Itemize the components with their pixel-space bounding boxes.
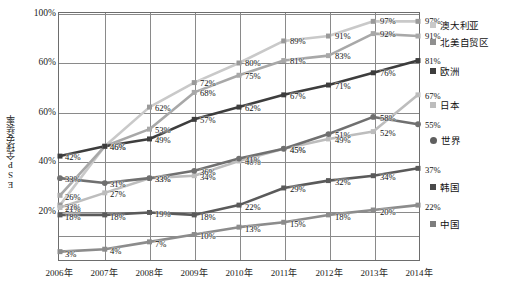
data-point-label: 91%	[335, 31, 351, 41]
data-point-label: 71%	[335, 81, 351, 91]
data-point-label: 36%	[200, 167, 216, 177]
data-point-label: 42%	[65, 152, 81, 162]
legend-item[interactable]: 欧洲	[430, 64, 460, 78]
x-axis-tick-label: 2011年	[271, 266, 298, 279]
legend-item[interactable]: 日本	[430, 98, 460, 112]
data-point-label: 49%	[155, 135, 171, 145]
y-axis-tick-label: 60%	[18, 57, 56, 67]
data-point-label: 15%	[290, 219, 306, 229]
data-point-label: 53%	[155, 125, 171, 135]
y-axis-tick-labels: 100%60%60%40%20%	[16, 0, 56, 301]
legend-marker-icon	[430, 184, 436, 190]
data-point-label: 19%	[155, 209, 171, 219]
data-point-label: 32%	[335, 177, 351, 187]
data-point-label: 4%	[110, 246, 121, 256]
legend-item-label: 世界	[441, 133, 461, 147]
data-point-label: 97%	[380, 16, 396, 26]
legend-item-label: 北美自贸区	[440, 35, 489, 49]
legend-item[interactable]: 北美自贸区	[430, 35, 489, 49]
legend-item[interactable]: 澳大利亚	[430, 18, 479, 32]
data-point-label: 26%	[65, 192, 81, 202]
legend-marker-icon	[430, 137, 437, 144]
data-point-labels: 22%46%62%72%80%89%91%97%97%26%46%53%68%7…	[59, 13, 419, 260]
data-point-label: 72%	[200, 78, 216, 88]
data-point-label: 67%	[290, 91, 306, 101]
data-point-label: 62%	[245, 103, 261, 113]
legend-item[interactable]: 中国	[430, 217, 460, 231]
data-point-label: 18%	[200, 212, 216, 222]
x-axis-tick-label: 2013年	[361, 266, 388, 279]
legend-marker-icon	[430, 22, 436, 28]
x-axis-tick-label: 2014年	[406, 266, 433, 279]
legend-marker-icon	[430, 102, 436, 108]
legend-item-label: 韩国	[440, 180, 460, 194]
data-point-label: 13%	[245, 224, 261, 234]
data-point-label: 89%	[290, 36, 306, 46]
x-axis-tick-label: 2006年	[46, 266, 73, 279]
y-axis-tick-label: 40%	[18, 156, 56, 166]
data-point-label: 68%	[200, 88, 216, 98]
data-point-label: 29%	[290, 184, 306, 194]
data-point-label: 41%	[245, 155, 261, 165]
legend-item-label: 欧洲	[440, 64, 460, 78]
data-point-label: 37%	[425, 165, 441, 175]
data-point-label: 18%	[335, 212, 351, 222]
data-point-label: 57%	[200, 115, 216, 125]
data-point-label: 31%	[110, 179, 126, 189]
y-axis-tick-label: 60%	[18, 107, 56, 117]
data-point-label: 3%	[65, 249, 76, 259]
legend-item[interactable]: 韩国	[430, 180, 460, 194]
data-point-label: 52%	[380, 128, 396, 138]
legend-item-label: 日本	[440, 98, 460, 112]
data-point-label: 46%	[110, 142, 126, 152]
data-point-label: 20%	[380, 207, 396, 217]
data-point-label: 76%	[380, 68, 396, 78]
data-point-label: 92%	[380, 29, 396, 39]
data-point-label: 83%	[335, 51, 351, 61]
legend-marker-icon	[430, 39, 436, 45]
data-point-label: 80%	[245, 58, 261, 68]
data-point-label: 55%	[425, 120, 441, 130]
data-point-label: 7%	[155, 239, 166, 249]
chart-container: ESP全球安装率 100%60%60%40%20% 22%46%62%72%80…	[0, 0, 509, 301]
x-axis-tick-label: 2010年	[226, 266, 253, 279]
data-point-label: 51%	[335, 130, 351, 140]
data-point-label: 18%	[65, 212, 81, 222]
data-point-label: 58%	[380, 113, 396, 123]
x-axis-tick-label: 2009年	[181, 266, 208, 279]
data-point-label: 10%	[200, 231, 216, 241]
data-point-label: 75%	[245, 71, 261, 81]
legend-marker-icon	[430, 221, 436, 227]
plot-area: 22%46%62%72%80%89%91%97%97%26%46%53%68%7…	[58, 12, 420, 261]
x-axis-tick-label: 2012年	[316, 266, 343, 279]
data-point-label: 45%	[290, 145, 306, 155]
data-point-label: 22%	[425, 202, 441, 212]
data-point-label: 34%	[380, 172, 396, 182]
data-point-label: 62%	[155, 103, 171, 113]
legend-marker-icon	[430, 68, 436, 74]
data-point-label: 33%	[155, 174, 171, 184]
x-axis-tick-labels: 2006年2007年2008年2009年2010年2011年2012年2013年…	[0, 266, 509, 286]
data-point-label: 27%	[110, 189, 126, 199]
y-axis-tick-label: 20%	[18, 206, 56, 216]
data-point-label: 22%	[245, 202, 261, 212]
legend-item-label: 澳大利亚	[440, 18, 479, 32]
data-point-label: 33%	[65, 174, 81, 184]
data-point-label: 81%	[290, 56, 306, 66]
legend-item-label: 中国	[440, 217, 460, 231]
x-axis-tick-label: 2007年	[91, 266, 118, 279]
legend-item[interactable]: 世界	[430, 133, 461, 147]
x-axis-tick-label: 2008年	[136, 266, 163, 279]
y-axis-tick-label: 100%	[18, 8, 56, 18]
data-point-label: 18%	[110, 212, 126, 222]
